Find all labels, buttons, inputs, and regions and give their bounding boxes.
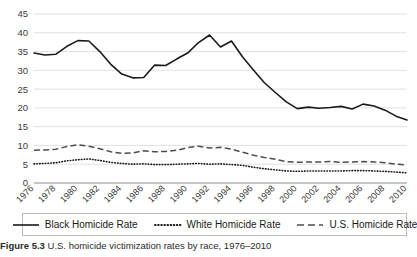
x-axis-tick-labels: 1976197819801982198419861988199019921994… xyxy=(14,183,408,204)
legend-label-black: Black Homicide Rate xyxy=(45,219,138,230)
x-axis-tick-label: 1998 xyxy=(256,183,277,204)
x-axis-tick-label: 2002 xyxy=(299,183,320,204)
y-axis-tick-label: 35 xyxy=(17,46,28,57)
x-axis-tick-label: 2004 xyxy=(321,183,342,204)
figure-caption-text: U.S. homicide victimization rates by rac… xyxy=(48,240,272,251)
x-axis-tick-label: 1984 xyxy=(102,183,123,204)
y-axis-tick-label: 10 xyxy=(17,140,28,151)
legend-item-white: White Homicide Rate xyxy=(154,219,281,230)
legend-label-white: White Homicide Rate xyxy=(187,219,281,230)
x-axis-tick-label: 2006 xyxy=(343,183,364,204)
x-axis-tick-label: 1996 xyxy=(234,183,255,204)
x-axis-tick-label: 2000 xyxy=(277,183,298,204)
series-line-dashed xyxy=(34,145,407,165)
y-axis-tick-label: 25 xyxy=(17,84,28,95)
legend-item-us: U.S. Homicide Rate xyxy=(296,219,417,230)
chart-legend: Black Homicide Rate White Homicide Rate … xyxy=(22,213,407,236)
legend-swatch-dotted-icon xyxy=(154,221,182,229)
x-axis-tick-label: 1992 xyxy=(190,183,211,204)
x-axis-tick-label: 1988 xyxy=(146,183,167,204)
x-axis-tick-label: 1976 xyxy=(14,183,35,204)
line-chart: 051015202530354045 197619781980198219841… xyxy=(0,0,415,212)
gridlines-group xyxy=(34,14,407,183)
data-series-group xyxy=(34,35,407,173)
x-axis-tick-label: 1978 xyxy=(36,183,57,204)
legend-swatch-dashed-icon xyxy=(296,221,324,229)
x-axis-tick-label: 1986 xyxy=(124,183,145,204)
y-axis-tick-label: 30 xyxy=(17,65,28,76)
x-axis-tick-label: 2010 xyxy=(387,183,408,204)
figure-caption: Figure 5.3 U.S. homicide victimization r… xyxy=(0,240,415,251)
x-axis-tick-label: 1994 xyxy=(212,183,233,204)
legend-item-black: Black Homicide Rate xyxy=(12,219,138,230)
chart-plot-area: 051015202530354045 197619781980198219841… xyxy=(0,0,415,212)
series-line-dotted xyxy=(34,159,407,173)
y-axis-tick-label: 20 xyxy=(17,102,28,113)
legend-swatch-solid-icon xyxy=(12,221,40,229)
x-axis-tick-label: 1990 xyxy=(168,183,189,204)
y-axis-tick-labels: 051015202530354045 xyxy=(17,8,28,188)
x-axis-tick-label: 1982 xyxy=(80,183,101,204)
x-axis-tick-label: 2008 xyxy=(365,183,386,204)
series-line-solid xyxy=(34,35,407,120)
y-axis-tick-label: 45 xyxy=(17,8,28,19)
figure-caption-label: Figure 5.3 xyxy=(0,240,45,251)
y-axis-tick-label: 5 xyxy=(23,159,28,170)
x-axis-tick-label: 1980 xyxy=(58,183,79,204)
legend-label-us: U.S. Homicide Rate xyxy=(329,219,417,230)
y-axis-tick-label: 40 xyxy=(17,27,28,38)
y-axis-tick-label: 15 xyxy=(17,121,28,132)
